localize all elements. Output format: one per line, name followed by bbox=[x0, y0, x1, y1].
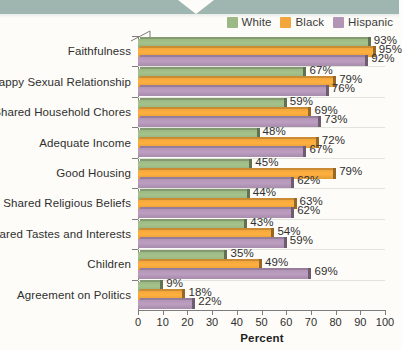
category-label: Agreement on Politics bbox=[17, 289, 131, 301]
bar-body bbox=[138, 118, 318, 127]
bar-body bbox=[138, 148, 303, 157]
bar-end-cap bbox=[291, 207, 294, 218]
value-label: 49% bbox=[265, 256, 288, 268]
x-axis-tick bbox=[187, 310, 188, 315]
legend-item-black: Black bbox=[280, 16, 324, 28]
bar-rect bbox=[138, 270, 308, 279]
category-label: Good Housing bbox=[56, 167, 131, 179]
bar-body bbox=[138, 270, 308, 279]
bar-top-face bbox=[140, 298, 193, 300]
x-axis-tick-label: 40 bbox=[231, 316, 243, 328]
x-axis-tick-label: 80 bbox=[329, 316, 341, 328]
x-axis-tick-label: 70 bbox=[305, 316, 317, 328]
category-label: Shared Tastes and Interests bbox=[0, 228, 131, 240]
bar-hispanic-7 bbox=[138, 270, 308, 279]
bar-hispanic-3 bbox=[138, 148, 303, 157]
bar-hispanic-2 bbox=[138, 118, 318, 127]
bar-body bbox=[138, 300, 192, 309]
bar-top-face bbox=[140, 198, 295, 200]
header-band-notch bbox=[178, 0, 214, 14]
bar-top-face bbox=[140, 85, 327, 87]
bar-rect bbox=[138, 148, 303, 157]
x-axis-tick bbox=[237, 310, 238, 315]
bar-top-face bbox=[140, 289, 183, 291]
bar-top-face bbox=[140, 146, 304, 148]
value-label: 35% bbox=[230, 247, 253, 259]
bar-top-face bbox=[140, 37, 369, 39]
bar-top-face bbox=[140, 280, 161, 282]
header-band bbox=[0, 0, 399, 14]
x-axis-tick-label: 60 bbox=[280, 316, 292, 328]
value-label: 67% bbox=[309, 143, 332, 155]
bar-rect bbox=[138, 300, 192, 309]
bar-top-face bbox=[140, 107, 309, 109]
bar-top-face bbox=[140, 250, 225, 252]
bar-top-face bbox=[140, 259, 260, 261]
bar-end-cap bbox=[308, 268, 311, 279]
legend-swatch-icon bbox=[280, 17, 291, 28]
x-axis-tick-label: 30 bbox=[206, 316, 218, 328]
value-label: 62% bbox=[297, 174, 320, 186]
y-axis-tick bbox=[132, 219, 138, 220]
x-axis-tick bbox=[311, 310, 312, 315]
bar-chart: FaithfulnessHappy Sexual RelationshipSha… bbox=[0, 30, 399, 350]
bar-end-cap bbox=[365, 55, 368, 66]
x-axis-tick bbox=[212, 310, 213, 315]
y-axis-tick bbox=[132, 66, 138, 67]
x-axis-title: Percent bbox=[138, 332, 386, 344]
y-axis-tick bbox=[132, 127, 138, 128]
x-axis-tick-label: 10 bbox=[157, 316, 169, 328]
value-label: 62% bbox=[297, 204, 320, 216]
legend-label: Black bbox=[295, 16, 324, 28]
y-axis-tick bbox=[132, 36, 138, 37]
bar-top-face bbox=[140, 228, 272, 230]
y-axis-tick bbox=[132, 188, 138, 189]
value-label: 59% bbox=[290, 234, 313, 246]
category-label: Shared Religious Beliefs bbox=[3, 197, 131, 209]
value-label: 92% bbox=[371, 52, 394, 64]
bar-top-face bbox=[140, 237, 285, 239]
bar-top-face bbox=[140, 168, 334, 170]
value-label: 69% bbox=[314, 265, 337, 277]
category-label: Happy Sexual Relationship bbox=[0, 76, 131, 88]
y-axis-tick bbox=[132, 158, 138, 159]
bar-end-cap bbox=[284, 237, 287, 248]
value-label: 43% bbox=[250, 216, 273, 228]
x-axis-tick bbox=[286, 310, 287, 315]
x-axis-tick-label: 90 bbox=[354, 316, 366, 328]
bar-hispanic-8 bbox=[138, 300, 192, 309]
chart-legend: WhiteBlackHispanic bbox=[227, 14, 393, 30]
x-axis-tick-label: 0 bbox=[135, 316, 141, 328]
y-axis-tick bbox=[132, 97, 138, 98]
legend-label: Hispanic bbox=[348, 16, 393, 28]
bar-top-face bbox=[140, 137, 317, 139]
bar-end-cap bbox=[333, 168, 336, 179]
legend-item-hispanic: Hispanic bbox=[333, 16, 393, 28]
bar-end-cap bbox=[303, 146, 306, 157]
bar-body bbox=[138, 239, 284, 248]
value-label: 73% bbox=[324, 113, 347, 125]
x-axis-tick bbox=[163, 310, 164, 315]
bar-top-face bbox=[140, 159, 250, 161]
x-axis-tick-label: 20 bbox=[181, 316, 193, 328]
value-label: 79% bbox=[339, 165, 362, 177]
value-label: 9% bbox=[166, 277, 183, 289]
x-axis-tick bbox=[138, 310, 139, 315]
bar-end-cap bbox=[326, 85, 329, 96]
bar-top-face bbox=[140, 116, 319, 118]
value-label: 22% bbox=[198, 295, 221, 307]
bar-rect bbox=[138, 118, 318, 127]
category-label: Adequate Income bbox=[39, 137, 131, 149]
value-label: 59% bbox=[290, 95, 313, 107]
legend-item-white: White bbox=[227, 16, 272, 28]
value-label: 67% bbox=[309, 64, 332, 76]
category-label: Children bbox=[87, 258, 131, 270]
bar-top-face bbox=[140, 67, 304, 69]
bar-top-face bbox=[140, 76, 334, 78]
bar-top-face bbox=[140, 128, 258, 130]
legend-swatch-icon bbox=[227, 17, 238, 28]
bar-top-face bbox=[140, 98, 285, 100]
category-label: Faithfulness bbox=[68, 45, 131, 57]
value-label: 44% bbox=[253, 186, 276, 198]
x-axis-tick bbox=[385, 310, 386, 315]
